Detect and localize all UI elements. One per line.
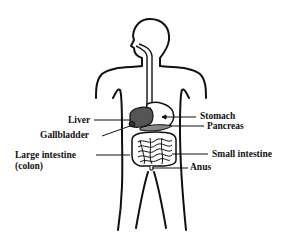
esophagus bbox=[136, 44, 152, 106]
label-gallbladder: Gallbladder bbox=[40, 130, 89, 140]
digestive-system-diagram bbox=[0, 0, 300, 243]
label-pancreas: Pancreas bbox=[207, 121, 244, 131]
label-liver: Liver bbox=[68, 115, 90, 125]
label-anus: Anus bbox=[190, 162, 211, 172]
label-large-intestine: Large intestine bbox=[15, 150, 76, 160]
label-stomach: Stomach bbox=[200, 111, 235, 121]
label-small-intestine: Small intestine bbox=[212, 149, 272, 159]
label-colon: (colon) bbox=[15, 161, 43, 171]
